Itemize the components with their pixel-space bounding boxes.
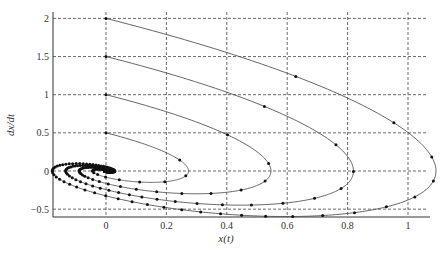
trajectory-marker (107, 189, 110, 192)
y-tick-label: 0.5 (37, 127, 50, 138)
trajectory-marker (138, 181, 141, 184)
trajectory-marker (68, 183, 71, 186)
y-tick-label: 0 (44, 166, 49, 177)
trajectory-marker (75, 186, 78, 189)
y-tick-label: 1.5 (37, 51, 50, 62)
trajectory-marker (131, 200, 134, 203)
grid-lines (53, 12, 428, 217)
y-tick-label: 2 (44, 13, 49, 24)
trajectory-marker (74, 178, 77, 181)
trajectory-marker (117, 191, 120, 194)
trajectory-marker (104, 176, 107, 179)
trajectory-marker (105, 93, 108, 96)
trajectory-marker (78, 162, 81, 165)
y-axis-label: dx/dt (4, 113, 16, 136)
trajectory-marker (104, 169, 107, 172)
trajectory-marker (71, 162, 74, 165)
trajectory-marker (99, 187, 102, 190)
y-tick-label: 1 (44, 89, 49, 100)
trajectory-marker (75, 162, 78, 165)
trajectory-marker (117, 197, 120, 200)
trajectory-marker (105, 131, 108, 134)
trajectory-marker (267, 162, 270, 165)
trajectory-marker (83, 188, 86, 191)
x-tick-label: 0 (104, 220, 109, 231)
trajectory-marker (240, 214, 243, 217)
trajectory-marker (128, 193, 131, 196)
trajectory-marker (63, 180, 66, 183)
trajectory-marker (392, 121, 395, 124)
trajectory-marker (55, 175, 58, 178)
trajectory-marker (385, 205, 388, 208)
trajectory-marker (264, 215, 267, 218)
trajectory-line (52, 18, 436, 216)
x-tick-label: 0.4 (221, 220, 234, 231)
trajectory-marker (91, 184, 94, 187)
trajectory-marker (313, 197, 316, 200)
trajectory-marker (178, 159, 181, 162)
x-tick-label: 0.8 (341, 220, 354, 231)
trajectory-marker (334, 143, 337, 146)
trajectory-line (93, 133, 189, 183)
trajectory-marker (135, 188, 138, 191)
trajectory-marker (97, 164, 100, 167)
trajectory-marker (85, 162, 88, 165)
trajectory-marker (432, 180, 435, 183)
trajectory-marker (105, 17, 108, 20)
x-tick-label: 0.6 (281, 220, 294, 231)
trajectory-marker (98, 180, 101, 183)
trajectory-marker (94, 164, 97, 167)
tick-labels: 00.20.40.60.81−0.500.511.52 (31, 13, 411, 231)
trajectory-marker (240, 189, 243, 192)
trajectory-marker (430, 156, 433, 159)
x-tick-label: 0.2 (160, 220, 173, 231)
trajectory-marker (93, 191, 96, 194)
trajectory-marker (88, 163, 91, 166)
trajectory-marker (180, 208, 183, 211)
trajectory-marker (68, 162, 71, 165)
trajectory-marker (291, 215, 294, 218)
trajectory-marker (119, 185, 122, 188)
trajectory-marker (210, 192, 213, 195)
trajectory-marker (199, 210, 202, 213)
axes (53, 12, 430, 217)
trajectory-marker (221, 203, 224, 206)
trajectory-marker (58, 164, 61, 167)
trajectory-marker (226, 133, 229, 136)
trajectory-marker (85, 182, 88, 185)
trajectory-marker (64, 163, 67, 166)
trajectory-marker (155, 190, 158, 193)
trajectory-marker (146, 203, 149, 206)
trajectory-marker (91, 163, 94, 166)
trajectory-marker (264, 180, 267, 183)
trajectory-marker (56, 165, 59, 168)
trajectory-marker (174, 200, 177, 203)
trajectory-marker (180, 192, 183, 195)
trajectory-marker (163, 180, 166, 183)
trajectory-marker (340, 187, 343, 190)
trajectory-marker (263, 105, 266, 108)
trajectory-marker (250, 204, 253, 207)
trajectory-marker (321, 214, 324, 217)
trajectory-marker (58, 178, 61, 181)
trajectory-marker (61, 163, 64, 166)
trajectory-marker (219, 212, 222, 215)
trajectory-marker (352, 170, 355, 173)
trajectory-marker (184, 174, 187, 177)
trajectory-marker (413, 195, 416, 198)
trajectory-marker (105, 55, 108, 58)
trajectory-marker (118, 178, 121, 181)
x-tick-label: 1 (406, 220, 411, 231)
trajectory-marker (107, 183, 110, 186)
trajectory-marker (91, 178, 94, 181)
trajectory-marker (196, 202, 199, 205)
trajectory-marker (156, 198, 159, 201)
trajectory-marker (87, 176, 90, 179)
phase-portrait-chart: 00.20.40.60.81−0.500.511.52 x(t) dx/dt (0, 0, 446, 255)
trajectory-marker (71, 176, 74, 179)
trajectory-marker (140, 195, 143, 198)
trajectory-marker (162, 206, 165, 209)
trajectories (51, 17, 436, 218)
trajectory-marker (82, 162, 85, 165)
trajectory-marker (353, 211, 356, 214)
